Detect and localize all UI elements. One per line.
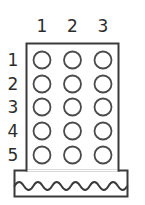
pin-r2c3	[95, 76, 112, 93]
pin-r5c3	[95, 147, 112, 164]
pin-r1c3	[95, 52, 112, 69]
row-label-4: 4	[4, 123, 22, 140]
row-label-3: 3	[4, 99, 22, 116]
row-label-1: 1	[4, 52, 22, 69]
column-header-3: 3	[93, 18, 113, 35]
pin-r3c2	[64, 99, 81, 116]
pin-r1c2	[64, 52, 81, 69]
row-label-2: 2	[4, 76, 22, 93]
pin-r1c1	[34, 52, 51, 69]
connector-diagram: 1 2 3 1 2 3 4 5	[0, 0, 145, 205]
pin-r4c3	[95, 123, 112, 140]
pin-r5c2	[64, 147, 81, 164]
pin-r5c1	[34, 147, 51, 164]
row-label-5: 5	[4, 147, 22, 164]
pin-r4c2	[64, 123, 81, 140]
pin-grid	[34, 52, 112, 164]
connector-body-rect	[27, 44, 119, 171]
pin-r3c1	[34, 99, 51, 116]
column-header-1: 1	[32, 18, 52, 35]
pin-r2c2	[64, 76, 81, 93]
base-wavy-line	[15, 182, 128, 190]
pin-r2c1	[34, 76, 51, 93]
column-header-2: 2	[63, 18, 83, 35]
pin-r4c1	[34, 123, 51, 140]
pin-r3c3	[95, 99, 112, 116]
